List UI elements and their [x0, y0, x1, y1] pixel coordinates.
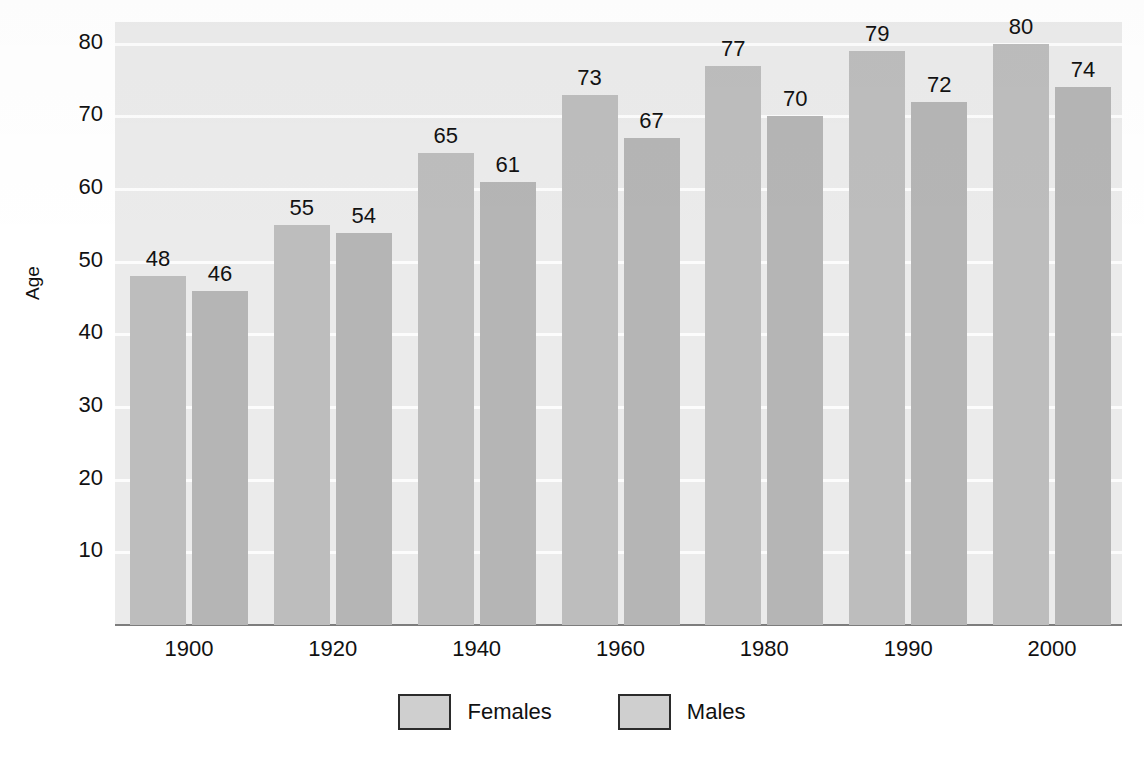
bar-value-label: 79 — [837, 21, 917, 47]
bar-value-label: 80 — [981, 14, 1061, 40]
bar-males-1920 — [336, 233, 392, 625]
y-tick-label: 70 — [43, 101, 103, 127]
bar-males-1980 — [767, 116, 823, 625]
bar-females-1980 — [705, 66, 761, 625]
legend-swatch-icon — [398, 694, 451, 730]
bar-females-1990 — [849, 51, 905, 625]
x-tick-label: 1940 — [417, 636, 537, 662]
x-tick-label: 1960 — [561, 636, 681, 662]
x-tick-label: 1990 — [848, 636, 968, 662]
chart-legend: FemalesMales — [0, 694, 1144, 730]
bar-value-label: 67 — [612, 108, 692, 134]
legend-item-males[interactable]: Males — [618, 694, 746, 730]
bar-value-label: 61 — [468, 152, 548, 178]
y-tick-label: 30 — [43, 392, 103, 418]
bar-males-1960 — [624, 138, 680, 625]
bar-value-label: 72 — [899, 72, 979, 98]
bar-females-2000 — [993, 44, 1049, 625]
bar-males-2000 — [1055, 87, 1111, 625]
y-tick-label: 20 — [43, 465, 103, 491]
legend-swatch-icon — [618, 694, 671, 730]
bar-value-label: 54 — [324, 203, 404, 229]
bar-chart: 1020304050607080 Age 4846555465617367777… — [0, 0, 1144, 768]
x-tick-label: 2000 — [992, 636, 1112, 662]
x-tick-label: 1980 — [704, 636, 824, 662]
legend-label: Females — [467, 699, 551, 725]
y-tick-label: 50 — [43, 247, 103, 273]
legend-label: Males — [687, 699, 746, 725]
bar-value-label: 73 — [550, 65, 630, 91]
y-tick-label: 40 — [43, 319, 103, 345]
bar-value-label: 65 — [406, 123, 486, 149]
legend-item-females[interactable]: Females — [398, 694, 551, 730]
bar-females-1900 — [130, 276, 186, 625]
y-tick-label: 60 — [43, 174, 103, 200]
y-tick-label: 10 — [43, 537, 103, 563]
y-axis-title: Age — [22, 266, 44, 300]
bar-value-label: 70 — [755, 86, 835, 112]
bar-females-1940 — [418, 153, 474, 625]
bar-males-1990 — [911, 102, 967, 625]
bar-females-1920 — [274, 225, 330, 625]
bar-males-1900 — [192, 291, 248, 625]
bar-males-1940 — [480, 182, 536, 625]
bar-value-label: 46 — [180, 261, 260, 287]
x-tick-label: 1920 — [273, 636, 393, 662]
y-tick-label: 80 — [43, 29, 103, 55]
bar-females-1960 — [562, 95, 618, 625]
bar-value-label: 74 — [1043, 57, 1123, 83]
bar-value-label: 77 — [693, 36, 773, 62]
x-tick-label: 1900 — [129, 636, 249, 662]
